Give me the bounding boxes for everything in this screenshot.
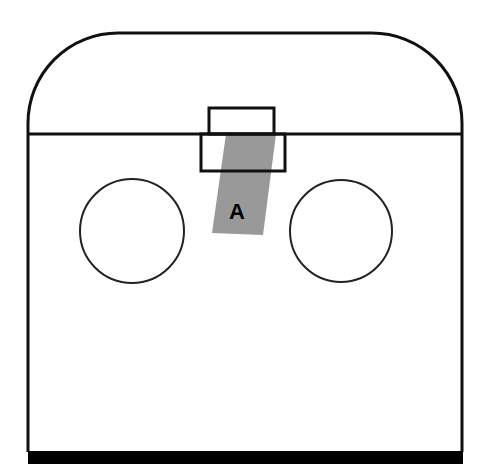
left-circle [80, 179, 184, 283]
diagram-canvas: A [0, 0, 491, 474]
outer-body [28, 33, 462, 452]
base-bar [28, 451, 463, 464]
band-label: A [229, 199, 245, 224]
upper-slot [209, 108, 274, 134]
right-circle [290, 180, 392, 282]
